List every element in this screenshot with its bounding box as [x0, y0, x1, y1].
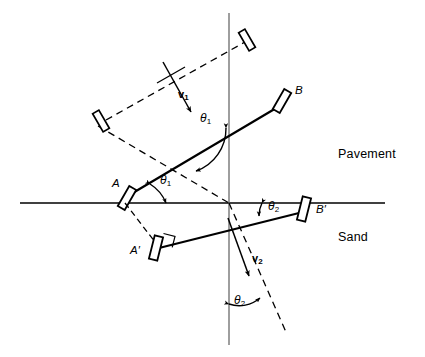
vector-label-v1: v1: [178, 89, 189, 102]
region-label-pavement: Pavement: [338, 148, 396, 161]
physics-diagram-figure: Pavement Sand A B A′ B′ v1 v2 θ1 θ1 θ2 θ…: [0, 0, 425, 357]
velocity-v1-arrow: [163, 62, 191, 112]
angle-subscript-theta1-normal: 1: [207, 117, 211, 126]
angle-symbol-theta1-normal: θ: [200, 111, 207, 125]
point-label-B-prime: B′: [316, 204, 326, 216]
wheel-Bprime: [297, 196, 311, 221]
angle-symbol-theta2-axle: θ: [268, 199, 275, 213]
angle-label-theta2-axle: θ2: [268, 200, 279, 214]
wheel-upper-right: [239, 29, 256, 51]
point-label-A: A: [112, 178, 120, 190]
diagram-canvas: [0, 0, 425, 357]
angle-subscript-theta1-axle: 1: [167, 179, 171, 188]
angle-label-theta1-normal: θ1: [200, 112, 211, 126]
vector-subscript-v2: 2: [258, 257, 262, 266]
upper-dashed-axle: [106, 42, 245, 120]
v1-axle-tick: [157, 67, 185, 83]
angle-subscript-theta2-axle: 2: [275, 205, 279, 214]
region-label-sand: Sand: [338, 231, 368, 244]
angle-symbol-theta1-axle: θ: [160, 173, 167, 187]
vector-label-v2: v2: [252, 253, 263, 266]
incident-ray-dashed: [98, 126, 229, 203]
wheel-upper-left: [93, 110, 110, 132]
vector-subscript-v1: 1: [184, 93, 188, 102]
angle-label-theta1-axle: θ1: [160, 174, 171, 188]
wheel-B: [273, 89, 291, 113]
angle-arc-theta1-normal: [196, 128, 226, 171]
wheel-Aprime: [149, 235, 163, 260]
angle-label-theta2-normal: θ2: [234, 294, 245, 308]
angle-subscript-theta2-normal: 2: [241, 299, 245, 308]
dashed-A-to-Aprime: [125, 203, 155, 242]
point-label-A-prime: A′: [130, 245, 140, 257]
angle-arc-theta2-axle: [259, 203, 262, 216]
angle-symbol-theta2-normal: θ: [234, 293, 241, 307]
point-label-B: B: [295, 85, 303, 97]
axle-ApBp-solid: [159, 212, 303, 248]
